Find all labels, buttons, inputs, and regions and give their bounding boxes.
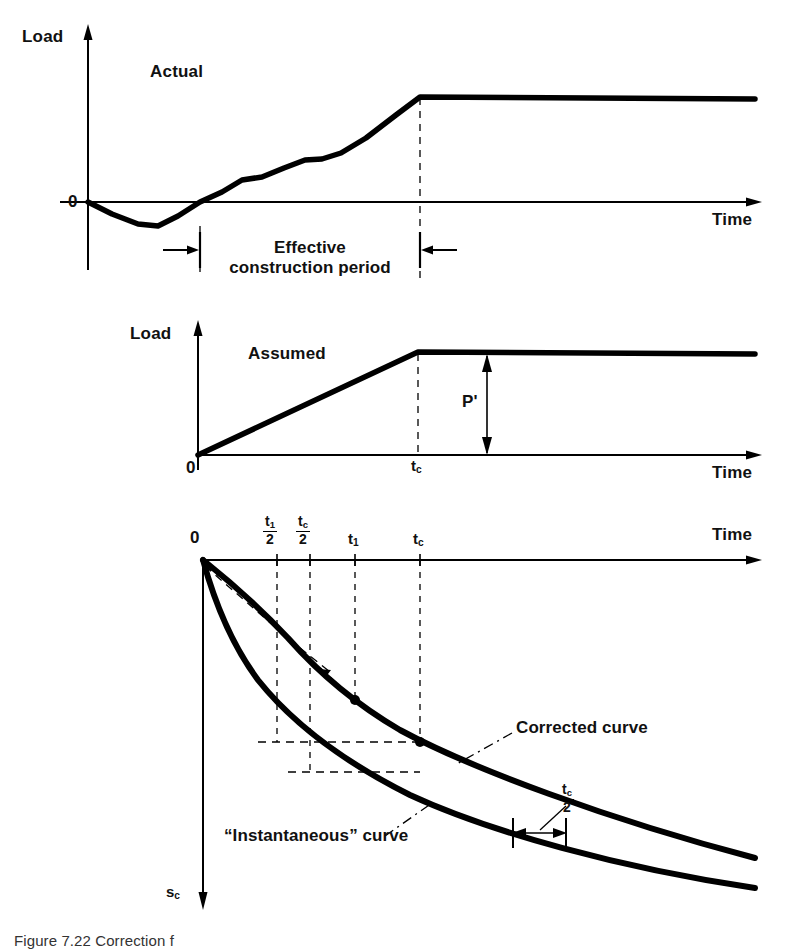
tick-t1-subscript: 1 [353,537,359,548]
offset-arrowhead-right [553,828,567,838]
panel-assumed [194,320,763,470]
figure-caption: Figure 7.22 Correction f [14,932,174,949]
actual-load-curve [88,97,755,226]
settlement-tick-tc: tc [413,531,424,549]
settlement-tick-tc-over-2: tc 2 [296,514,326,548]
assumed-series-label: Assumed [248,344,326,363]
assumed-x-axis-arrowhead [746,451,762,460]
construction-point-tc [415,737,425,747]
offset-num-sub: c [567,787,572,798]
actual-x-axis-arrowhead [746,198,762,207]
assumed-tick-tc-subscript: c [416,464,422,475]
assumed-x-axis-label: Time [712,463,752,482]
settlement-y-axis-label-subscript: c [174,890,180,901]
p-prime-label: P' [462,392,478,411]
assumed-y-axis-label: Load [130,324,171,343]
assumed-y-axis-arrowhead [194,320,203,336]
tick-tc-subscript: c [418,537,424,548]
assumed-tick-tc: tc [411,458,422,476]
panel-settlement [199,554,763,910]
actual-origin-label: 0 [68,192,77,211]
tick-t1-over-2-den: 2 [263,532,277,546]
p-prime-arrowhead-bottom [482,437,492,455]
settlement-y-axis-label: sc [166,884,180,902]
settlement-x-axis-label: Time [712,525,752,544]
settlement-y-axis-arrowhead [199,892,208,910]
settlement-origin-label: 0 [190,528,199,547]
assumed-origin-label: 0 [186,458,195,477]
effective-construction-period-line1: Effective [210,238,410,257]
settlement-x-axis-arrowhead [746,556,762,565]
actual-series-label: Actual [150,62,203,81]
tick-tc-over-2-den: 2 [296,532,310,546]
effective-construction-period-line2: construction period [210,258,410,277]
offset-den: 2 [560,800,574,814]
corrected-curve-label: Corrected curve [516,718,648,737]
p-prime-arrowhead-top [482,354,492,372]
actual-y-axis-label: Load [22,27,63,46]
tick-tc-over-2-num-sub: c [303,519,308,530]
actual-x-axis-label: Time [712,210,752,229]
offset-tc-over-2-label: tc 2 [560,782,590,816]
period-left-arrowhead [187,246,199,255]
instantaneous-curve-label: “Instantaneous” curve [224,826,408,845]
period-right-arrowhead [421,246,433,255]
actual-y-axis-arrowhead [84,24,93,40]
construction-point-t1 [350,695,360,705]
settlement-tick-t1: t1 [348,531,359,549]
tick-t1-over-2-num-sub: 1 [270,519,275,530]
settlement-tick-t1-over-2: t1 2 [263,514,293,548]
